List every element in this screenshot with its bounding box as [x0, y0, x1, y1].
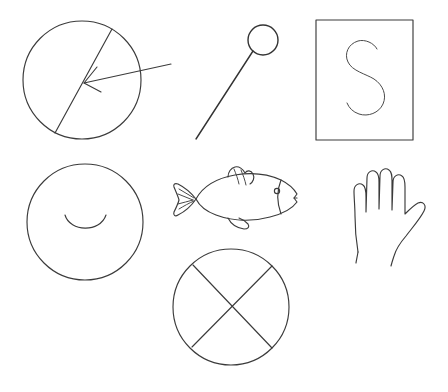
figure-circle-with-smile-arc — [27, 164, 143, 280]
pin-shaft-line — [196, 51, 253, 139]
gill-line — [278, 180, 281, 214]
figure-square-with-letter-s — [316, 20, 413, 140]
wrist-left-edge — [356, 252, 358, 263]
circle-outline — [27, 164, 143, 280]
fish-eye — [274, 188, 279, 193]
dorsal-ray-1 — [234, 169, 239, 184]
circle-outline — [23, 21, 141, 139]
tail-ray-2 — [178, 194, 193, 200]
hand-outline — [354, 169, 425, 266]
fish-body — [196, 174, 297, 221]
chord-line — [55, 29, 112, 133]
figure-pin — [196, 25, 278, 139]
figure-circle-with-chord-and-arrow — [23, 21, 171, 139]
pin-head-circle — [248, 25, 278, 55]
smile-arc — [65, 215, 106, 228]
drawing-sheet: Line Drawings Sheet Circle with chord an… — [0, 0, 448, 392]
drawings-canvas — [0, 0, 448, 392]
figure-fish — [174, 167, 297, 229]
square-outline — [316, 20, 413, 140]
figure-hand — [354, 169, 425, 266]
letter-s-outline — [346, 40, 384, 115]
figure-circle-with-x — [173, 249, 289, 365]
